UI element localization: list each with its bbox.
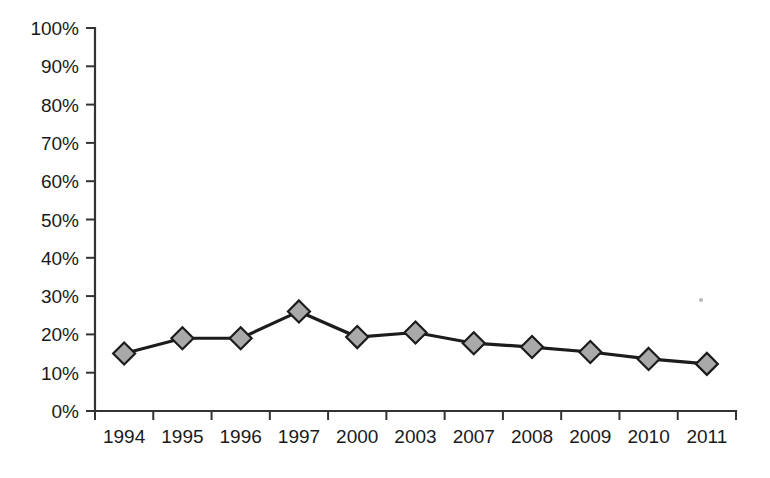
y-tick-label: 10% <box>41 363 79 384</box>
y-tick-label: 40% <box>41 248 79 269</box>
x-tick-label: 2008 <box>511 426 553 447</box>
x-tick-label: 2010 <box>627 426 669 447</box>
y-tick-label: 50% <box>41 210 79 231</box>
chart-canvas: 0%10%20%30%40%50%60%70%80%90%100% 199419… <box>0 0 770 478</box>
y-tick-label: 30% <box>41 286 79 307</box>
x-tick-label: 1995 <box>161 426 203 447</box>
y-tick-label: 80% <box>41 95 79 116</box>
x-tick-label: 2000 <box>336 426 378 447</box>
line-chart: 0%10%20%30%40%50%60%70%80%90%100% 199419… <box>0 0 770 478</box>
y-tick-label: 0% <box>52 401 80 422</box>
x-tick-label: 1997 <box>278 426 320 447</box>
x-tick-label: 1996 <box>220 426 262 447</box>
x-tick-label: 2007 <box>453 426 495 447</box>
x-axis-tick-labels: 1994199519961997200020032007200820092010… <box>103 426 727 447</box>
y-tick-label: 100% <box>30 18 79 39</box>
y-tick-label: 20% <box>41 324 79 345</box>
chart-background <box>0 0 770 478</box>
x-tick-label: 2011 <box>686 426 727 447</box>
y-tick-label: 70% <box>41 133 79 154</box>
x-tick-label: 2003 <box>394 426 436 447</box>
y-tick-label: 60% <box>41 171 79 192</box>
x-tick-label: 2009 <box>569 426 611 447</box>
scan-speck-artifact <box>699 298 703 302</box>
y-tick-label: 90% <box>41 56 79 77</box>
x-tick-label: 1994 <box>103 426 146 447</box>
